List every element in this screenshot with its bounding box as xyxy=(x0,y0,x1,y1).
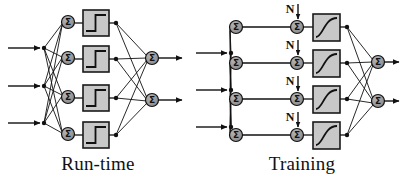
panel-run-time: Σ Σ Σ Σ xyxy=(8,10,182,174)
activation-box-step xyxy=(83,122,109,148)
summation-node: Σ xyxy=(230,129,243,142)
output-arrows-training xyxy=(385,62,400,101)
sigma-icon: Σ xyxy=(294,130,300,140)
output-nodes-run-time: Σ Σ xyxy=(146,52,159,107)
summation-node: Σ xyxy=(372,95,385,108)
noise-label: N xyxy=(286,110,295,124)
output-junctions-run-time xyxy=(114,21,118,137)
noise-injection: N xyxy=(286,110,298,127)
activation-box-step xyxy=(83,46,109,72)
activation-box-sigmoid xyxy=(313,14,340,41)
noise-summation-node: Σ xyxy=(291,129,304,142)
input-arrows-training xyxy=(196,53,227,127)
output-junctions-training xyxy=(345,25,349,137)
sigma-icon: Σ xyxy=(233,22,239,32)
caption-training: Training xyxy=(269,153,336,174)
edges-input-hidden-training xyxy=(230,29,231,136)
noise-label: N xyxy=(286,2,295,16)
sigma-icon: Σ xyxy=(375,96,381,106)
edge xyxy=(44,60,62,123)
activation-box-sigmoid xyxy=(313,50,340,77)
edges-hidden-output-training xyxy=(347,27,373,135)
edge xyxy=(116,23,147,56)
edge xyxy=(44,24,62,48)
sigma-icon: Σ xyxy=(65,92,71,102)
summation-node: Σ xyxy=(146,94,159,107)
sigma-icon: Σ xyxy=(233,130,239,140)
noise-label: N xyxy=(286,74,295,88)
sigma-icon: Σ xyxy=(149,53,155,63)
hidden-nodes-run-time: Σ Σ Σ Σ xyxy=(62,16,75,141)
edge xyxy=(116,103,147,135)
edges-hidden-output-run-time xyxy=(116,23,147,135)
input-arrows-run-time xyxy=(8,48,40,123)
summation-node: Σ xyxy=(62,52,75,65)
edge xyxy=(116,23,147,98)
summation-node: Σ xyxy=(146,52,159,65)
caption-run-time: Run-time xyxy=(61,153,134,174)
noise-summation-node: Σ xyxy=(291,21,304,34)
activation-box-step xyxy=(83,10,109,36)
connectors-hidden-box-run-time xyxy=(75,23,84,135)
edge xyxy=(116,58,147,59)
summation-node: Σ xyxy=(372,56,385,69)
summation-node: Σ xyxy=(230,93,243,106)
sigma-icon: Σ xyxy=(294,22,300,32)
activation-box-step xyxy=(83,85,109,111)
activation-box-sigmoid xyxy=(313,122,340,149)
summation-node: Σ xyxy=(62,91,75,104)
noise-injection: N xyxy=(286,74,298,91)
noise-summation-node: Σ xyxy=(291,57,304,70)
box-leads-training xyxy=(340,27,347,135)
neural-network-figure: Σ Σ Σ Σ xyxy=(0,0,400,179)
noise-injection: N xyxy=(286,2,298,19)
edge xyxy=(347,62,373,63)
connectors-noise-box-training xyxy=(304,27,314,135)
activation-boxes-training xyxy=(313,14,340,149)
sigma-icon: Σ xyxy=(233,94,239,104)
output-nodes-training: Σ Σ xyxy=(372,56,385,108)
sigma-icon: Σ xyxy=(65,129,71,139)
noise-injection: N xyxy=(286,38,298,55)
summation-node: Σ xyxy=(230,57,243,70)
summation-node: Σ xyxy=(62,128,75,141)
box-leads-run-time xyxy=(109,23,116,135)
sigma-icon: Σ xyxy=(149,95,155,105)
summation-node: Σ xyxy=(230,21,243,34)
edges-input-hidden-run-time xyxy=(44,24,62,133)
noise-label: N xyxy=(286,38,295,52)
sigma-icon: Σ xyxy=(294,58,300,68)
edge xyxy=(347,27,373,60)
hidden-nodes-training: Σ Σ Σ Σ xyxy=(230,21,243,142)
activation-boxes-run-time xyxy=(83,10,109,148)
connectors-hidden-noise-training xyxy=(243,27,291,135)
output-arrows-run-time xyxy=(159,58,183,100)
sigma-icon: Σ xyxy=(65,53,71,63)
noise-summation-node: Σ xyxy=(291,93,304,106)
sigma-icon: Σ xyxy=(294,94,300,104)
sigma-icon: Σ xyxy=(233,58,239,68)
sigma-icon: Σ xyxy=(65,17,71,27)
edge xyxy=(347,105,373,135)
activation-box-sigmoid xyxy=(313,86,340,113)
panel-training: Σ Σ Σ Σ N xyxy=(196,2,399,174)
summation-node: Σ xyxy=(62,16,75,29)
sigma-icon: Σ xyxy=(375,57,381,67)
